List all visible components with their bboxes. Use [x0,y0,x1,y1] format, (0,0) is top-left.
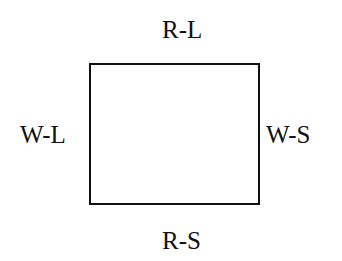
label-left: W-L [20,122,66,147]
label-bottom: R-S [162,228,201,253]
diagram-canvas: R-L W-L W-S R-S [0,0,342,261]
label-right: W-S [266,122,310,147]
central-rectangle [89,63,260,205]
label-top: R-L [162,17,202,42]
